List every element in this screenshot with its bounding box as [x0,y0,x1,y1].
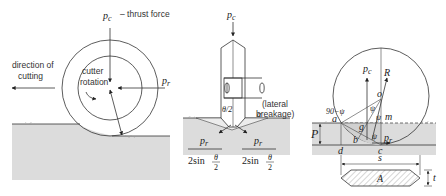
thickness-label: t [433,172,436,183]
left-theta: θ [214,153,218,162]
label-g: g [359,121,364,132]
rotation-arrow-icon [86,92,96,99]
thrust-label: pc [362,63,372,76]
half-angle-label: θ/2 [222,105,232,114]
area-label: A [376,173,384,184]
shaft-right-edge [260,83,264,93]
panel-rolling-cutter: pc – thrust force pr direction of cuttin… [12,9,171,180]
line-a-o [341,99,381,123]
rolling-force-label: pr [161,75,171,88]
rotation-label-2: rotation [80,77,109,87]
ground-hatch-icon [185,116,195,119]
penetration-label: P [310,127,319,141]
ground-hatch-icon [125,135,135,138]
ground-hatch-icon [422,121,432,124]
direction-label-1: direction of [12,60,54,70]
right-two: 2 [268,163,272,172]
thrust-label: pc [226,9,236,22]
lateral-label-1: (lateral [262,99,288,109]
panel-disc-geometry: pc R o 90−ψ a b c d g m ψ ψ ψ pr P s A [310,48,436,186]
rock-cutting-diagram: pc – thrust force pr direction of cuttin… [0,0,446,196]
spacing-label: s [378,152,382,163]
radius-arrow [110,90,122,135]
left-two: 2 [214,163,218,172]
right-theta: θ [268,153,272,162]
label-m: m [385,111,392,122]
lateral-label-2: breakage) [256,109,294,119]
rotation-label-1: cutter [82,66,103,76]
thrust-desc: – thrust force [120,9,170,19]
label-psi-top: ψ [370,104,376,113]
left-fraction-den: 2sin [188,155,205,166]
thrust-label: pc [102,10,112,23]
ground-hatch-icon [25,122,35,125]
direction-label-2: cutting [18,71,43,81]
panel-wedge-indentation: pc θ/2 α (lateral breakage) pr 2sin θ 2 … [183,9,294,172]
label-b: b [353,134,358,145]
right-fraction-den: 2sin [242,155,259,166]
resultant-label: R [383,67,390,78]
label-a: a [332,113,337,124]
label-o: o [377,88,382,99]
